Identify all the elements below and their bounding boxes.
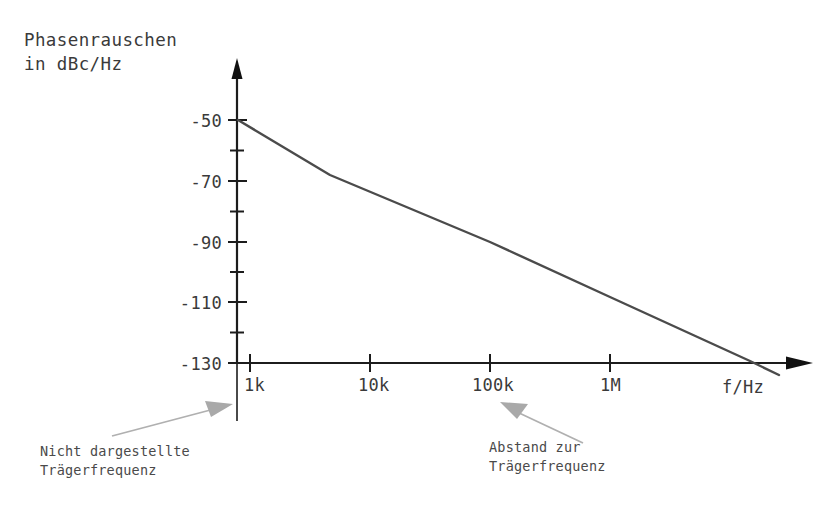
y-axis-title-line2: in dBc/Hz [24, 54, 122, 74]
y-tick-label-3: -110 [180, 293, 222, 313]
callout-carrier-not-shown: Nicht dargestellte Trägerfrequenz [40, 401, 233, 478]
callout-offset-arrowhead [500, 402, 528, 419]
phase-noise-chart: Phasenrauschen in dBc/Hz -50 -70 -90 -11… [0, 0, 832, 506]
annotation-carrier-line2: Trägerfrequenz [40, 462, 157, 478]
y-tick-label-0: -50 [190, 111, 222, 131]
x-tick-label-3: 1M [600, 375, 621, 395]
annotation-offset-line2: Trägerfrequenz [489, 458, 606, 474]
phase-noise-figure: Phasenrauschen in dBc/Hz -50 -70 -90 -11… [0, 0, 832, 506]
y-tick-label-2: -90 [190, 233, 222, 253]
y-axis-arrowhead [232, 58, 243, 79]
y-axis-title-line1: Phasenrauschen [24, 30, 177, 50]
x-tick-label-0: 1k [244, 375, 265, 395]
x-axis-label: f/Hz [722, 377, 764, 397]
x-tick-label-2: 100k [472, 375, 514, 395]
y-tick-label-1: -70 [190, 172, 222, 192]
y-tick-label-4: -130 [180, 354, 222, 374]
x-axis-arrowhead [786, 357, 813, 370]
callout-carrier-line [112, 408, 218, 436]
x-tick-label-1: 10k [358, 375, 390, 395]
annotation-offset-line1: Abstand zur [489, 439, 581, 455]
phase-noise-curve [238, 120, 779, 375]
callout-carrier-arrowhead [205, 401, 233, 417]
callout-offset-from-carrier: Abstand zur Trägerfrequenz [489, 402, 606, 474]
annotation-carrier-line1: Nicht dargestellte [40, 443, 190, 459]
